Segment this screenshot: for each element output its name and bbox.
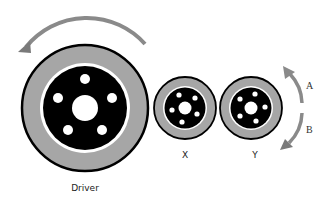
- option-b-arrow: [280, 113, 302, 150]
- wheel-y: [220, 77, 282, 139]
- option-b-label: B: [306, 124, 313, 135]
- option-a-label: A: [306, 80, 314, 91]
- option-a-arrow: [283, 66, 302, 103]
- gear-diagram: Driver X Y A B: [0, 0, 332, 203]
- wheel-x-label: X: [182, 150, 188, 160]
- arrowhead-icon: [18, 41, 31, 53]
- driver-label: Driver: [71, 183, 99, 193]
- hub-icon: [72, 95, 98, 121]
- wheel-x: [154, 77, 216, 139]
- driver-wheel: [22, 45, 148, 171]
- wheel-y-label: Y: [251, 150, 258, 160]
